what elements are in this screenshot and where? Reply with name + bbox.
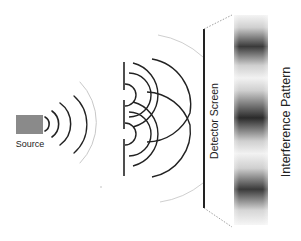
projection-line-bottom [204, 208, 232, 227]
faint-wavefront-large [158, 35, 203, 202]
source-emitter [16, 115, 43, 134]
double-slit-diagram: Source Detector Screen [0, 0, 301, 241]
source-wave-5-faint [80, 82, 96, 163]
source-wave-4 [74, 96, 87, 153]
interference-pattern: Interference Pattern [234, 15, 293, 225]
source-wave-3 [60, 103, 71, 145]
lower-slit-wavefronts [125, 92, 190, 177]
interference-pattern-label: Interference Pattern [279, 67, 293, 178]
stray-dot [100, 186, 102, 188]
interference-edge-fade [234, 15, 268, 225]
projection-line-top [204, 15, 232, 29]
source-wave-2 [52, 111, 59, 137]
source: Source [16, 115, 45, 149]
source-wavefronts [45, 82, 96, 163]
detector-screen: Detector Screen [204, 29, 220, 208]
source-label: Source [16, 139, 45, 149]
source-wave-1 [45, 117, 49, 131]
detector-screen-label: Detector Screen [208, 83, 220, 159]
